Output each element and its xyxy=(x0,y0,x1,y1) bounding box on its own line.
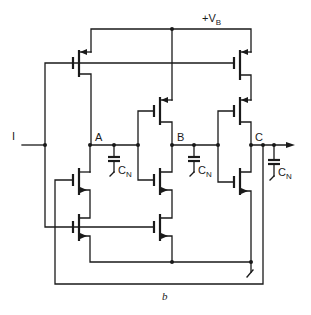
node-label-a: A xyxy=(95,131,103,143)
svg-text:CN: CN xyxy=(118,164,132,179)
transistor-pmos-right-2 xyxy=(218,97,251,145)
circuit-diagram: +VB xyxy=(0,0,311,315)
transistor-nmos-middle-lower xyxy=(154,214,174,264)
transistor-pmos-middle xyxy=(138,97,172,145)
node-label-c: C xyxy=(255,131,263,143)
figure-caption: b xyxy=(162,290,168,302)
capacitor-b: CN xyxy=(188,145,212,179)
node-row: I A B C xyxy=(12,130,295,148)
capacitor-c: CN xyxy=(268,145,292,181)
input-label: I xyxy=(12,130,15,142)
transistor-nmos-middle-upper xyxy=(138,145,172,218)
transistor-pmos-top-right xyxy=(234,49,251,100)
gate-bus xyxy=(45,63,233,145)
supply-label: +VB xyxy=(202,12,221,27)
capacitor-a: CN xyxy=(108,145,132,179)
node-label-b: B xyxy=(177,131,184,143)
svg-text:CN: CN xyxy=(278,166,292,181)
transistor-nmos-right xyxy=(218,145,253,277)
supply-rail: +VB xyxy=(91,12,251,100)
svg-text:CN: CN xyxy=(198,164,212,179)
transistor-nmos-left-lower xyxy=(45,145,251,262)
